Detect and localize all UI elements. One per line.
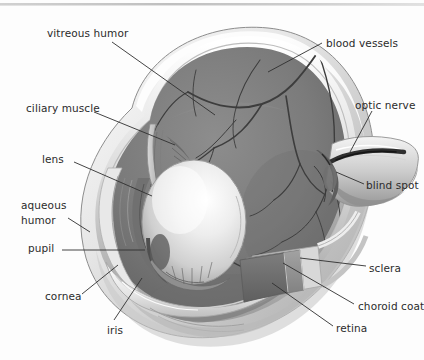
label-choroid-coat: choroid coat (358, 300, 424, 313)
label-sclera: sclera (369, 262, 401, 275)
label-ciliary-muscle: ciliary muscle (26, 102, 100, 115)
label-humor: humor (21, 214, 56, 227)
label-lens: lens (42, 153, 64, 166)
label-aqueous: aqueous (21, 199, 66, 212)
label-retina: retina (336, 322, 367, 335)
label-blind-spot: blind spot (366, 179, 419, 192)
label-iris: iris (107, 324, 123, 337)
label-optic-nerve: optic nerve (355, 99, 415, 112)
label-pupil: pupil (28, 242, 54, 255)
label-cornea: cornea (45, 290, 81, 303)
eye-diagram-figure: vitreous humorciliary musclelensaqueoush… (0, 0, 424, 360)
optic-nerve-trunk (326, 137, 418, 207)
label-blood-vessels: blood vessels (326, 37, 398, 50)
label-vitreous-humor: vitreous humor (47, 27, 128, 40)
